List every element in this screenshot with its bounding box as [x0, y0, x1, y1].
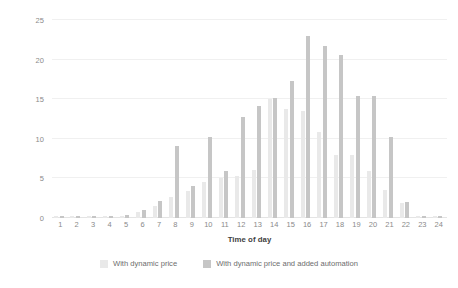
y-tick-label-25: 25 — [35, 16, 44, 25]
x-tick-label-21: 21 — [385, 220, 393, 229]
x-tick-label-15: 15 — [286, 220, 294, 229]
bar — [405, 202, 409, 218]
legend-item[interactable]: With dynamic price — [100, 259, 177, 268]
bar-group — [266, 20, 282, 218]
y-tick-label-15: 15 — [35, 95, 44, 104]
bar — [169, 197, 173, 218]
chart-legend: With dynamic priceWith dynamic price and… — [0, 259, 458, 268]
x-axis-title-text: Time of day — [228, 235, 272, 244]
legend-label: With dynamic price and added automation — [216, 259, 358, 268]
bar — [350, 155, 354, 218]
x-tick-label-2: 2 — [75, 220, 79, 229]
x-tick-label-12: 12 — [237, 220, 245, 229]
bar-group — [85, 20, 101, 218]
bar — [273, 98, 277, 218]
x-tick-label-5: 5 — [124, 220, 128, 229]
bar — [389, 137, 393, 218]
x-tick-label-16: 16 — [303, 220, 311, 229]
bar — [290, 81, 294, 218]
x-tick-label-19: 19 — [352, 220, 360, 229]
bar — [175, 146, 179, 218]
bar — [339, 55, 343, 218]
bar — [372, 96, 376, 218]
bar-group — [184, 20, 200, 218]
x-tick-label-1: 1 — [58, 220, 62, 229]
bar — [334, 155, 338, 218]
bar — [142, 210, 146, 218]
bar — [186, 191, 190, 218]
bar-group — [118, 20, 134, 218]
x-tick-label-13: 13 — [254, 220, 262, 229]
y-tick-label-0: 0 — [40, 214, 44, 223]
x-tick-label-10: 10 — [204, 220, 212, 229]
x-tick-label-22: 22 — [402, 220, 410, 229]
bar — [438, 216, 442, 218]
legend-item[interactable]: With dynamic price and added automation — [203, 259, 358, 268]
bar — [125, 215, 129, 218]
bar-group — [348, 20, 364, 218]
y-tick-label-10: 10 — [35, 134, 44, 143]
bar — [76, 216, 80, 218]
x-tick-label-23: 23 — [418, 220, 426, 229]
x-tick-label-8: 8 — [173, 220, 177, 229]
x-tick-label-6: 6 — [140, 220, 144, 229]
bar — [433, 216, 437, 218]
x-tick-label-14: 14 — [270, 220, 278, 229]
y-tick-label-20: 20 — [35, 55, 44, 64]
bar — [284, 109, 288, 218]
bar-group — [381, 20, 397, 218]
bar — [323, 46, 327, 218]
x-tick-label-9: 9 — [190, 220, 194, 229]
bar-group — [167, 20, 183, 218]
bar — [219, 178, 223, 218]
legend-swatch-icon — [203, 260, 211, 268]
y-tick-label-5: 5 — [40, 174, 44, 183]
bar — [208, 137, 212, 218]
y-axis-ticks: 0510152025 — [0, 0, 52, 288]
bar-group — [68, 20, 84, 218]
bar — [158, 201, 162, 218]
bar-group — [134, 20, 150, 218]
bar — [306, 36, 310, 218]
bar — [202, 182, 206, 218]
bar — [356, 96, 360, 218]
x-tick-label-3: 3 — [91, 220, 95, 229]
x-tick-label-4: 4 — [108, 220, 112, 229]
bar — [191, 186, 195, 218]
bar — [87, 216, 91, 218]
bar-group — [431, 20, 447, 218]
bar — [235, 176, 239, 218]
chart-figure: Reduction in energy usage (%) 0510152025… — [0, 0, 458, 288]
x-tick-label-11: 11 — [221, 220, 229, 229]
bar — [422, 216, 426, 218]
bar-group — [101, 20, 117, 218]
bar-group — [315, 20, 331, 218]
bar — [109, 216, 113, 218]
bar-group — [233, 20, 249, 218]
bar — [367, 171, 371, 218]
bar — [136, 212, 140, 218]
bar-group — [414, 20, 430, 218]
bar — [416, 216, 420, 218]
bar-group — [250, 20, 266, 218]
bar-group — [332, 20, 348, 218]
bar — [268, 99, 272, 218]
x-tick-label-24: 24 — [435, 220, 443, 229]
x-tick-label-18: 18 — [336, 220, 344, 229]
x-tick-label-7: 7 — [157, 220, 161, 229]
bar — [383, 190, 387, 219]
bar — [70, 216, 74, 218]
bar-group — [365, 20, 381, 218]
bar-group — [398, 20, 414, 218]
bar — [153, 206, 157, 218]
x-axis-title: Time of day — [52, 235, 447, 244]
bar-group — [282, 20, 298, 218]
bar — [301, 111, 305, 218]
bar-group — [200, 20, 216, 218]
legend-label: With dynamic price — [113, 259, 177, 268]
bar — [92, 216, 96, 218]
legend-swatch-icon — [100, 260, 108, 268]
x-tick-label-17: 17 — [319, 220, 327, 229]
x-axis-ticks: 123456789101112131415161718192021222324 — [52, 220, 447, 232]
bar — [120, 216, 124, 218]
